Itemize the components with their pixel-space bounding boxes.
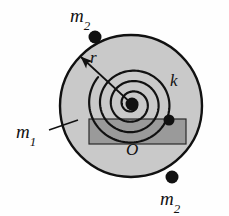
label-radius-r: r	[90, 49, 97, 66]
label-m2-top: m2	[70, 6, 90, 30]
label-spring-k: k	[170, 72, 178, 89]
label-m2-bottom-sub: 2	[174, 201, 180, 216]
label-m1: m1	[16, 122, 36, 146]
label-m2-bottom-main: m	[160, 188, 174, 209]
label-m1-main: m	[16, 121, 30, 142]
rim-mass-m2-right	[164, 115, 175, 126]
label-m2-top-main: m	[70, 5, 84, 26]
label-m2-bottom: m2	[160, 189, 180, 213]
label-origin-main: O	[126, 140, 138, 159]
label-origin-o: O	[126, 141, 138, 158]
label-spring-main: k	[170, 71, 178, 90]
label-m1-sub: 1	[30, 134, 36, 149]
physics-diagram-figure: m2 m2 m1 r k O	[0, 0, 229, 216]
label-m2-top-sub: 2	[84, 18, 90, 33]
label-radius-main: r	[90, 48, 97, 67]
rim-mass-m2-bottom-right	[166, 171, 179, 184]
diagram-canvas	[0, 0, 229, 216]
rim-mass-m2-top	[89, 31, 102, 44]
